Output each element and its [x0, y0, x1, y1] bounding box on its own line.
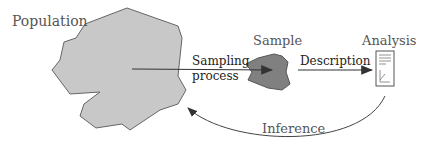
sampling-label-line1: Sampling [192, 54, 250, 68]
sampling-label-line2: process [192, 69, 239, 83]
inference-label: Inference [262, 121, 325, 136]
sample-shape [246, 54, 290, 90]
population-label: Population [12, 13, 88, 29]
sample-label: Sample [253, 33, 302, 48]
analysis-label: Analysis [362, 33, 417, 48]
analysis-document-icon [376, 51, 394, 86]
description-label: Description [300, 54, 370, 68]
